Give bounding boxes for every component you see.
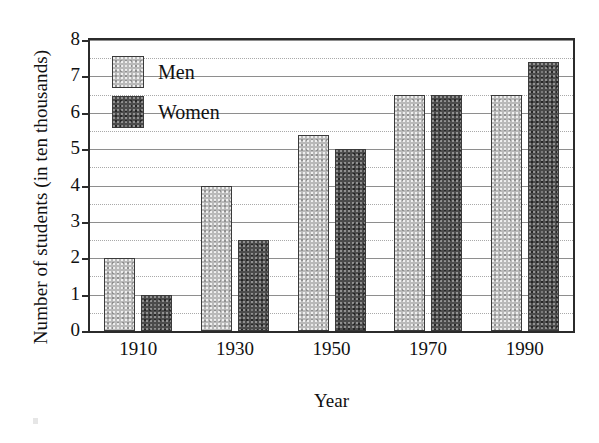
bar-chart-figure: Number of students (in ten thousands) 01…	[0, 0, 599, 443]
plot-area: Men Women	[88, 38, 575, 333]
bar-men-1950	[298, 135, 329, 331]
y-tick-label: 3	[54, 211, 80, 230]
y-tick-label: 1	[54, 284, 80, 303]
legend-label-men: Men	[158, 59, 195, 85]
bar-men-1990	[491, 95, 522, 331]
bar-men-1970	[394, 95, 425, 331]
x-tick-label-1910: 1910	[93, 338, 183, 360]
x-tick-label-1990: 1990	[480, 338, 570, 360]
y-tick-label: 8	[54, 29, 80, 48]
y-tick-label: 6	[54, 102, 80, 121]
bar-women-1990	[528, 62, 559, 331]
y-tick-label: 4	[54, 175, 80, 194]
men-swatch-icon	[112, 56, 144, 88]
x-tick-label-1950: 1950	[287, 338, 377, 360]
bar-women-1950	[335, 149, 366, 331]
bar-men-1910	[104, 258, 135, 331]
bar-women-1970	[431, 95, 462, 331]
y-tick-label: 7	[54, 65, 80, 84]
bar-women-1910	[141, 295, 172, 331]
x-tick-label-1930: 1930	[190, 338, 280, 360]
women-swatch-icon	[112, 96, 144, 128]
bar-women-1930	[238, 240, 269, 331]
x-tick-label-1970: 1970	[383, 338, 473, 360]
y-tick-label: 2	[54, 247, 80, 266]
bar-men-1930	[201, 186, 232, 332]
y-tick-label: 5	[54, 138, 80, 157]
scan-artifact	[33, 418, 38, 424]
y-tick-label: 0	[54, 320, 80, 339]
legend-label-women: Women	[158, 99, 220, 125]
x-axis-title: Year	[88, 390, 575, 412]
